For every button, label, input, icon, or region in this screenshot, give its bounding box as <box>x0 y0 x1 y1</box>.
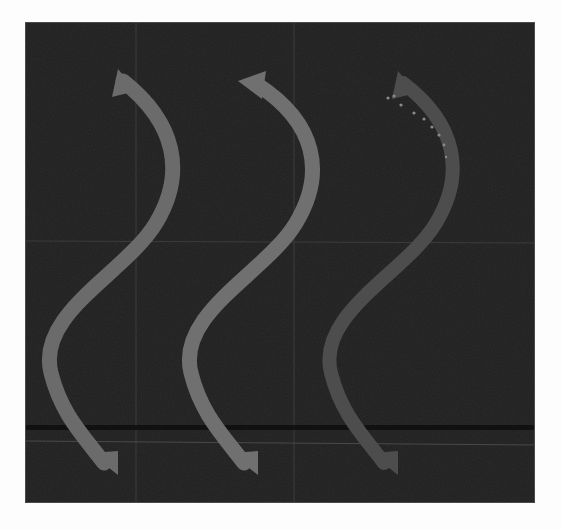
arrows-figure <box>26 23 535 503</box>
image-canvas <box>0 0 562 530</box>
dark-panel <box>25 22 535 503</box>
dark-band <box>26 425 535 430</box>
